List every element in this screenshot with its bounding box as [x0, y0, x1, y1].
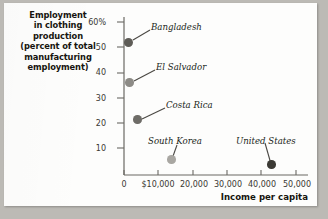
leader-line-costa-rica [142, 108, 165, 119]
data-point-bangladesh[interactable] [124, 38, 133, 47]
leader-line-el-salvador [134, 70, 155, 81]
point-label-el-salvador: El Salvador [156, 62, 206, 72]
x-tick-marks [124, 170, 296, 175]
chart-axes [0, 0, 328, 219]
y-tick-marks [117, 22, 124, 148]
point-label-costa-rica: Costa Rica [166, 100, 213, 110]
point-label-united-states: United States [236, 136, 296, 146]
leader-line-bangladesh [133, 30, 150, 40]
data-point-costa-rica[interactable] [133, 115, 142, 124]
point-label-south-korea: South Korea [148, 136, 202, 146]
point-label-bangladesh: Bangladesh [151, 22, 202, 32]
figure-container: Employment in clothing production (perce… [0, 0, 328, 219]
data-point-united-states[interactable] [267, 160, 276, 169]
data-point-el-salvador[interactable] [125, 78, 134, 87]
data-point-south-korea[interactable] [167, 155, 176, 164]
